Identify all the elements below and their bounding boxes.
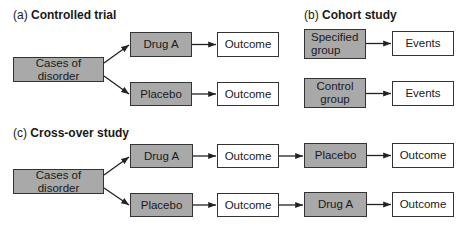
arrow-a-cases-to-placebo [104, 76, 129, 94]
arrow-a-cases-to-drug [104, 45, 129, 63]
arrow-connectors [0, 0, 465, 233]
arrow-c-cases-to-drug [104, 157, 129, 175]
arrow-c-cases-to-placebo [104, 188, 129, 205]
